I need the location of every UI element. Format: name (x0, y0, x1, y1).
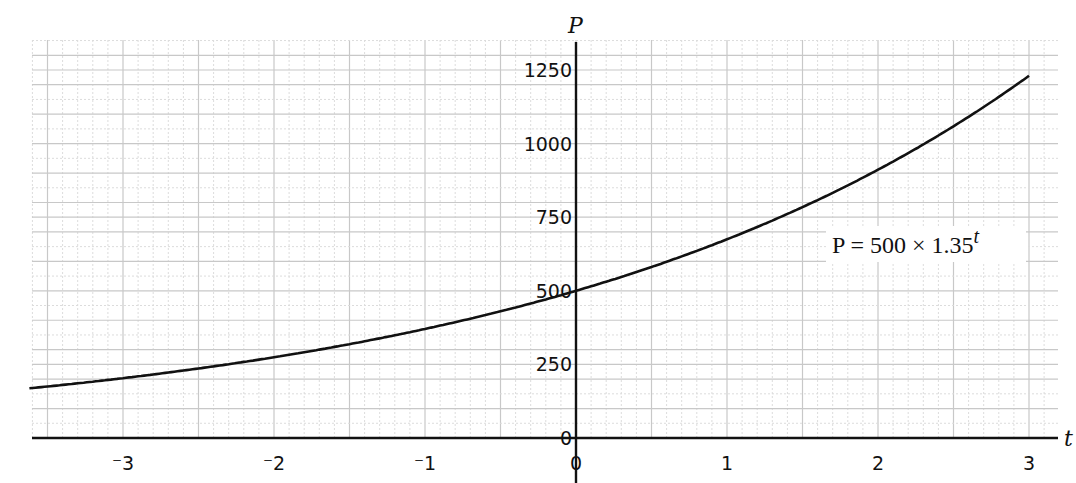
x-tick-label: 1 (721, 452, 733, 474)
axes (32, 42, 1058, 483)
x-tick-label: ⁻2 (263, 452, 285, 474)
x-axis-label: t (1064, 426, 1073, 451)
x-tick-label: 2 (872, 452, 884, 474)
chart: ⁻3⁻2⁻10123025050075010001250 P = 500 × 1… (0, 0, 1076, 483)
y-tick-label: 1000 (524, 133, 572, 155)
y-tick-label: 1250 (524, 59, 572, 81)
tick-labels: ⁻3⁻2⁻10123025050075010001250 (112, 59, 1035, 474)
y-tick-label: 0 (560, 427, 572, 449)
y-tick-label: 750 (536, 206, 572, 228)
x-tick-label: 0 (570, 452, 582, 474)
y-axis-label: P (567, 13, 584, 38)
formula-exponent: t (974, 225, 980, 247)
x-tick-label: ⁻1 (414, 452, 436, 474)
formula-annotation: P = 500 × 1.35t (826, 225, 1026, 262)
formula-main: P = 500 × 1.35 (832, 232, 974, 258)
y-tick-label: 250 (536, 353, 572, 375)
x-tick-label: ⁻3 (112, 452, 134, 474)
x-tick-label: 3 (1023, 452, 1035, 474)
